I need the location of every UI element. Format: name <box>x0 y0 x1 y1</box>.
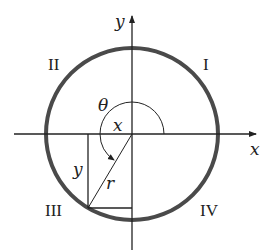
x-axis-label: x <box>250 139 260 159</box>
quadrant-label-iv: IV <box>200 201 219 220</box>
quadrant-label-iii: III <box>45 201 62 220</box>
quadrant-label-ii: II <box>48 55 60 74</box>
radius-line <box>88 134 132 208</box>
x-leg-label: x <box>113 115 123 135</box>
quadrant-label-i: I <box>203 55 209 74</box>
r-label: r <box>106 173 115 193</box>
y-axis-label: y <box>114 11 125 31</box>
y-leg-label: y <box>72 159 83 179</box>
unit-circle-diagram: y x II I III IV θ x y r <box>0 0 275 252</box>
theta-label: θ <box>98 95 108 115</box>
